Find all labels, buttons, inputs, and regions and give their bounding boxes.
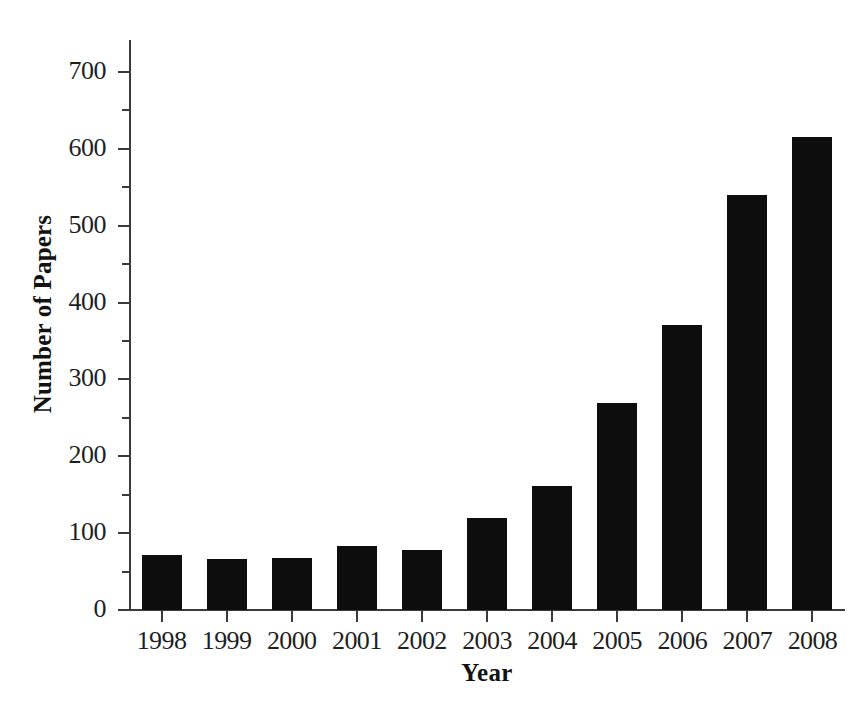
y-axis-minor-tick	[122, 263, 129, 265]
x-axis-title: Year	[129, 659, 845, 687]
x-axis-tick	[486, 611, 488, 622]
y-axis-tick	[118, 455, 129, 457]
x-axis-tick	[356, 611, 358, 622]
bar	[532, 486, 572, 610]
y-axis-tick	[118, 532, 129, 534]
y-axis-minor-tick	[122, 186, 129, 188]
y-axis-minor-tick	[122, 417, 129, 419]
bar	[597, 403, 637, 610]
y-axis-tick	[118, 71, 129, 73]
y-axis-tick	[118, 609, 129, 611]
y-axis-tick-label: 100	[38, 519, 106, 545]
bar	[207, 559, 247, 610]
bar	[792, 137, 832, 610]
x-axis-tick	[291, 611, 293, 622]
y-axis-spine	[129, 40, 131, 611]
x-axis-tick	[421, 611, 423, 622]
y-axis-tick-label: 200	[38, 442, 106, 468]
bar	[337, 546, 377, 610]
bar	[142, 555, 182, 610]
y-axis-tick	[118, 302, 129, 304]
x-axis-tick	[616, 611, 618, 622]
x-axis-tick	[746, 611, 748, 622]
bar	[467, 518, 507, 610]
y-axis-tick	[118, 225, 129, 227]
y-axis-tick-label: 700	[38, 58, 106, 84]
y-axis-tick-label: 0	[38, 596, 106, 622]
bar-chart-figure: 0100200300400500600700 19981999200020012…	[0, 0, 868, 715]
y-axis-minor-tick	[122, 494, 129, 496]
x-axis-tick	[681, 611, 683, 622]
y-axis-minor-tick	[122, 340, 129, 342]
x-axis-tick	[811, 611, 813, 622]
x-axis-tick	[551, 611, 553, 622]
x-axis-tick-label: 2008	[772, 626, 852, 656]
x-axis-tick	[161, 611, 163, 622]
bar	[662, 325, 702, 610]
bar	[402, 550, 442, 610]
y-axis-tick	[118, 378, 129, 380]
y-axis-tick	[118, 148, 129, 150]
y-axis-minor-tick	[122, 571, 129, 573]
bar	[272, 558, 312, 610]
y-axis-minor-tick	[122, 109, 129, 111]
y-axis-title: Number of Papers	[29, 194, 57, 434]
y-axis-tick-label: 600	[38, 135, 106, 161]
bar	[727, 195, 767, 610]
x-axis-tick	[226, 611, 228, 622]
